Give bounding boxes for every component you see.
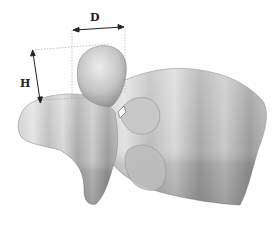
bone-illustration	[0, 0, 276, 231]
dimension-H-label: H	[20, 78, 30, 89]
dimension-D-label: D	[90, 12, 100, 23]
dimension-H-arrow	[31, 50, 43, 103]
figure-canvas: D H	[0, 0, 276, 231]
dimension-D-arrow	[73, 25, 124, 32]
